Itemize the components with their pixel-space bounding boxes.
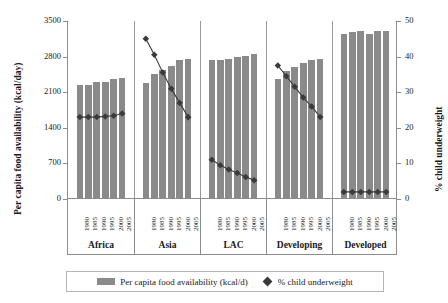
y-axis-right-tick-label: 20 — [405, 122, 429, 132]
x-axis-year-label: 2000 — [316, 217, 324, 231]
x-axis-year-label: 2005 — [324, 217, 332, 231]
chart-figure: Per capita food availability (kcal/day) … — [0, 0, 448, 303]
x-axis-year-label: 1995 — [175, 217, 183, 231]
marker-africa-2005 — [119, 110, 126, 117]
marker-developed-1985 — [349, 189, 356, 196]
y-axis-left-tick-label: 700 — [27, 157, 61, 167]
x-axis-year-label: 2000 — [117, 217, 125, 231]
x-axis-year-label: 1980 — [282, 217, 290, 231]
line-series-layer — [68, 21, 398, 199]
y-axis-left-tick-label: 3500 — [27, 15, 61, 25]
plot-area — [67, 21, 397, 199]
y-axis-left-tick-label: 2100 — [27, 86, 61, 96]
legend-label-bars: Per capita food availability (kcal/d) — [120, 277, 247, 287]
x-axis-year-label: 2005 — [390, 217, 398, 231]
x-axis-year-label: 1990 — [167, 217, 175, 231]
y-axis-left-title: Per capita food availability (kcal/day) — [13, 63, 23, 215]
x-axis-year-label: 1990 — [100, 217, 108, 231]
y-axis-right-tick-label: 0 — [405, 193, 429, 203]
group-cell-asia: 198019851990199520002005Asia — [134, 199, 200, 254]
y-axis-right-tick-label: 40 — [405, 51, 429, 61]
legend-item-line: % child underweight — [262, 277, 353, 287]
x-axis-year-label: 1985 — [158, 217, 166, 231]
marker-asia-1985 — [151, 52, 158, 59]
chart-legend: Per capita food availability (kcal/d) % … — [66, 271, 384, 292]
legend-label-line: % child underweight — [278, 277, 353, 287]
x-axis-year-label: 1995 — [108, 217, 116, 231]
marker-lac-1980 — [209, 157, 216, 164]
x-axis-group-label: Developed — [333, 240, 398, 250]
x-axis-year-label: 1995 — [241, 217, 249, 231]
marker-africa-1990 — [94, 114, 101, 121]
marker-lac-2005 — [251, 177, 258, 184]
marker-africa-1980 — [77, 114, 84, 121]
marker-africa-1995 — [102, 113, 109, 120]
x-axis-year-label: 1985 — [290, 217, 298, 231]
marker-developed-1995 — [366, 189, 373, 196]
x-axis-year-label: 1980 — [348, 217, 356, 231]
x-axis-year-label: 1995 — [373, 217, 381, 231]
marker-asia-2005 — [185, 114, 192, 121]
marker-developed-1980 — [341, 189, 348, 196]
x-axis-year-label: 2005 — [258, 217, 266, 231]
x-axis-group-label: Asia — [135, 240, 200, 250]
x-axis-year-label: 1980 — [216, 217, 224, 231]
marker-asia-1990 — [160, 69, 167, 76]
marker-africa-2000 — [110, 112, 117, 119]
x-axis-group-label: Africa — [68, 240, 134, 250]
x-axis-year-label: 1985 — [356, 217, 364, 231]
line-developing — [278, 66, 320, 118]
marker-africa-1985 — [85, 114, 92, 121]
y-axis-left-tick-label: 1400 — [27, 122, 61, 132]
group-cell-africa: 198019851990199520002005Africa — [68, 199, 134, 254]
x-axis-year-label: 2000 — [184, 217, 192, 231]
group-cell-developed: 198019851990199520002005Developed — [332, 199, 398, 254]
marker-lac-2000 — [242, 174, 249, 181]
marker-asia-1995 — [168, 85, 175, 92]
x-axis-group-label: Developing — [267, 240, 332, 250]
marker-asia-2000 — [176, 100, 183, 107]
marker-lac-1985 — [217, 162, 224, 169]
x-axis-year-label: 2000 — [250, 217, 258, 231]
marker-asia-1980 — [143, 36, 150, 43]
x-axis-year-label: 2005 — [192, 217, 200, 231]
marker-developed-1990 — [358, 189, 365, 196]
line-asia — [146, 39, 188, 117]
x-axis-year-label: 2000 — [382, 217, 390, 231]
group-cell-lac: 198019851990199520002005LAC — [200, 199, 266, 254]
x-axis-year-label: 2005 — [125, 217, 133, 231]
y-axis-left-tick-label: 0 — [27, 193, 61, 203]
legend-item-bars: Per capita food availability (kcal/d) — [97, 277, 247, 287]
x-axis-year-label: 1995 — [307, 217, 315, 231]
x-axis-group-label: LAC — [201, 240, 266, 250]
y-axis-right-tick-label: 50 — [405, 15, 429, 25]
x-axis-year-label: 1980 — [83, 217, 91, 231]
y-axis-right-title: % child underweight — [434, 106, 444, 192]
category-axis-band: 198019851990199520002005Africa1980198519… — [67, 199, 397, 255]
y-axis-right-tick-label: 10 — [405, 157, 429, 167]
y-axis-left-tick-label: 2800 — [27, 51, 61, 61]
group-cell-developing: 198019851990199520002005Developing — [266, 199, 332, 254]
x-axis-year-label: 1985 — [91, 217, 99, 231]
x-axis-year-label: 1990 — [365, 217, 373, 231]
marker-developed-2000 — [374, 189, 381, 196]
x-axis-year-label: 1980 — [150, 217, 158, 231]
x-axis-year-label: 1985 — [224, 217, 232, 231]
diamond-marker-icon — [262, 277, 272, 287]
bar-swatch-icon — [97, 278, 115, 285]
y-axis-right-tick-label: 30 — [405, 86, 429, 96]
marker-lac-1995 — [234, 170, 241, 177]
marker-developed-2005 — [383, 189, 390, 196]
marker-lac-1990 — [226, 166, 233, 173]
x-axis-year-label: 1990 — [299, 217, 307, 231]
x-axis-year-label: 1990 — [233, 217, 241, 231]
